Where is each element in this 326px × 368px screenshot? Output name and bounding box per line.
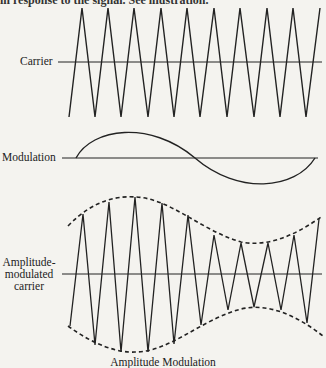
lower-envelope xyxy=(68,307,323,352)
am-label-line1: Amplitude- xyxy=(0,256,58,268)
am-label-line3: carrier xyxy=(0,280,58,292)
carrier-label: Carrier xyxy=(20,55,53,67)
figure-caption: Amplitude Modulation xyxy=(0,356,326,368)
modulation-label: Modulation xyxy=(2,151,56,163)
am-label-line2: modulated xyxy=(0,268,58,280)
am-carrier-label: Amplitude- modulated carrier xyxy=(0,256,58,292)
